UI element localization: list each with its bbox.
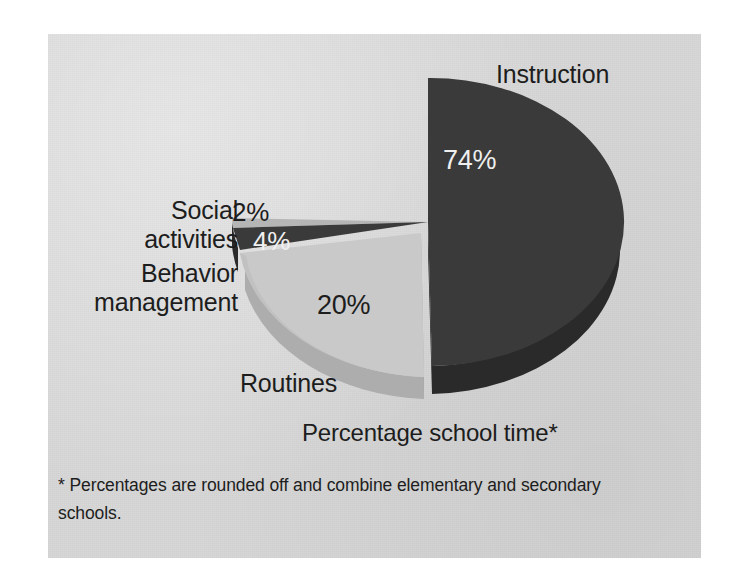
callout-label-instruction: Instruction	[496, 60, 686, 89]
callout-social-line-2: activities	[144, 225, 238, 253]
chart-title: Percentage school time*	[302, 419, 558, 446]
callout-behavior-line-1: Behavior	[141, 259, 238, 287]
callout-social-line-1: Social	[171, 196, 238, 224]
callout-behavior-line-2: management	[94, 288, 238, 316]
slice-value-routines: 20%	[317, 290, 370, 321]
callout-label-social-activities: Socialactivities	[90, 196, 238, 253]
figure-canvas: Socialactivities Behaviormanagement Rout…	[0, 0, 739, 574]
chart-footnote: * Percentages are rounded off and combin…	[58, 471, 618, 528]
slice-value-behavior-management: 4%	[253, 227, 290, 257]
callout-label-routines: Routines	[240, 369, 390, 398]
slice-value-instruction: 74%	[443, 145, 496, 176]
slice-value-social-activities: 2%	[232, 198, 269, 228]
callout-label-behavior-management: Behaviormanagement	[50, 259, 238, 316]
slice-top-instruction	[428, 78, 624, 366]
